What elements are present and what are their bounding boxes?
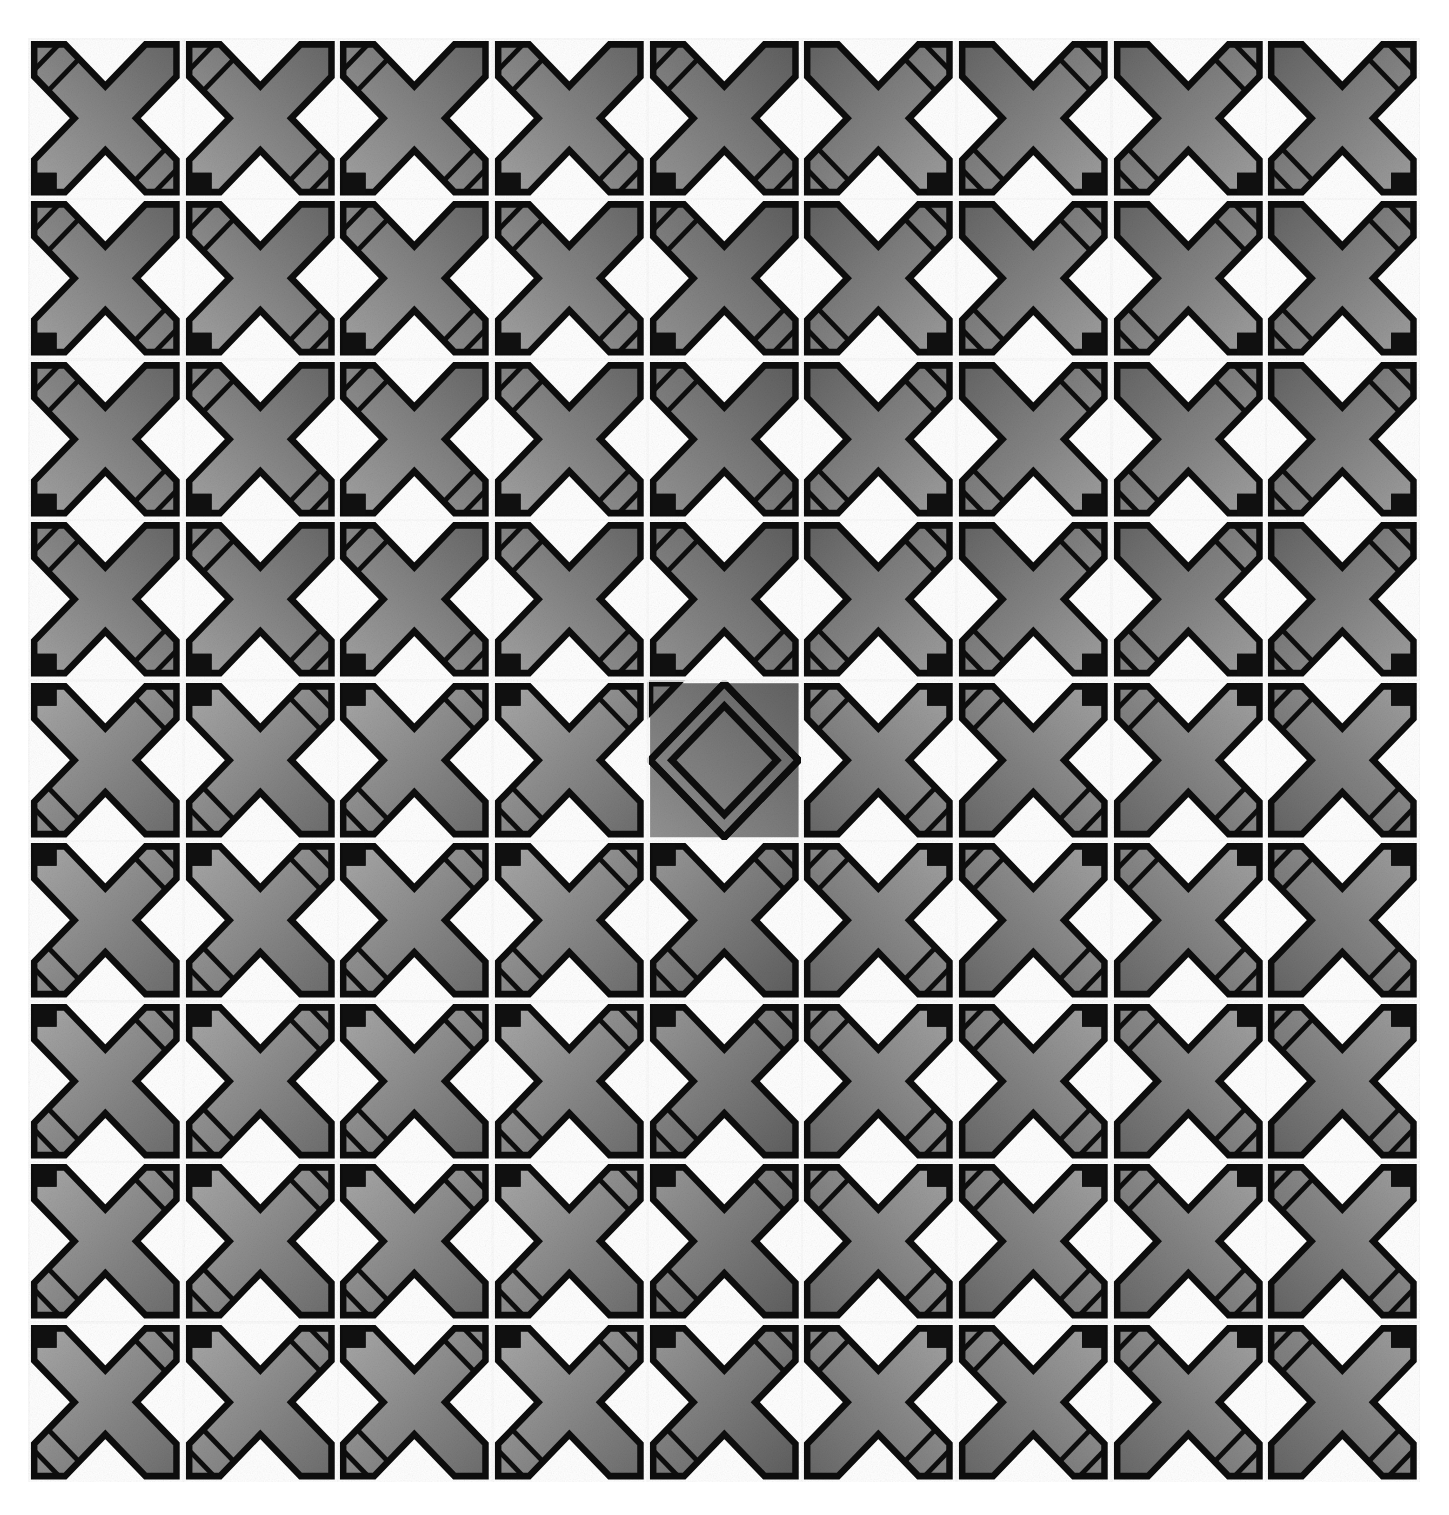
- tile-cell: [1265, 1322, 1420, 1482]
- tile-cell: [183, 840, 338, 1000]
- tile-cell: [337, 198, 492, 358]
- tile-cell: [647, 198, 802, 358]
- tile-cell: [1265, 38, 1420, 198]
- tile-cell: [183, 1161, 338, 1321]
- tile-cell: [647, 1001, 802, 1161]
- tile-cell: [492, 680, 647, 840]
- tile-cell: [1265, 359, 1420, 519]
- tile-cell: [647, 1161, 802, 1321]
- tile-cell: [183, 1322, 338, 1482]
- tile-cell: [28, 519, 183, 679]
- tile-cell: [183, 1001, 338, 1161]
- tile-cell: [801, 680, 956, 840]
- tile-cell: [801, 359, 956, 519]
- tile-cell: [956, 1161, 1111, 1321]
- tile-cell: [492, 198, 647, 358]
- tile-cell: [492, 359, 647, 519]
- tile-cell: [801, 1322, 956, 1482]
- tile-cell: [1111, 359, 1266, 519]
- tile-cell: [801, 519, 956, 679]
- tile-cell: [956, 359, 1111, 519]
- tile-cell: [183, 198, 338, 358]
- tile-cell: [801, 198, 956, 358]
- tile-cell: [337, 519, 492, 679]
- tile-cell: [28, 198, 183, 358]
- tile-cell: [956, 198, 1111, 358]
- tile-cell: [647, 680, 802, 840]
- tile-cell: [492, 38, 647, 198]
- tile-cell: [647, 38, 802, 198]
- tile-cell: [337, 680, 492, 840]
- tile-cell: [1265, 198, 1420, 358]
- tile-cell: [1111, 680, 1266, 840]
- tile-cell: [28, 680, 183, 840]
- tile-cell: [1265, 680, 1420, 840]
- tile-cell: [956, 519, 1111, 679]
- tile-cell: [337, 1161, 492, 1321]
- tile-cell: [28, 1161, 183, 1321]
- tile-cell: [647, 1322, 802, 1482]
- tile-cell: [801, 1161, 956, 1321]
- tile-cell: [956, 1322, 1111, 1482]
- tile-cell: [337, 38, 492, 198]
- tile-cell: [492, 840, 647, 1000]
- tile-cell: [28, 1001, 183, 1161]
- tile-cell: [28, 1322, 183, 1482]
- tile-cell: [1265, 1001, 1420, 1161]
- tile-cell: [183, 680, 338, 840]
- tile-pattern-grid: [28, 38, 1420, 1482]
- tile-cell: [492, 1001, 647, 1161]
- tile-cell: [28, 359, 183, 519]
- tile-cell: [492, 1322, 647, 1482]
- tile-cell: [1111, 38, 1266, 198]
- tile-cell: [801, 38, 956, 198]
- tile-cell: [1111, 840, 1266, 1000]
- tile-cell: [337, 359, 492, 519]
- tile-cell: [1111, 198, 1266, 358]
- tile-cell: [956, 840, 1111, 1000]
- tile-cell: [492, 1161, 647, 1321]
- tile-cell: [183, 519, 338, 679]
- tile-cell: [647, 359, 802, 519]
- tile-cell: [1111, 1001, 1266, 1161]
- tile-cell: [801, 1001, 956, 1161]
- tile-cell: [337, 840, 492, 1000]
- tile-cell: [1265, 519, 1420, 679]
- tile-cell: [183, 359, 338, 519]
- tile-cell: [183, 38, 338, 198]
- tile-cell: [956, 1001, 1111, 1161]
- tile-cell: [1111, 1322, 1266, 1482]
- tile-cell: [1265, 840, 1420, 1000]
- tile-cell: [28, 840, 183, 1000]
- tile-cell: [492, 519, 647, 679]
- tile-cell: [337, 1322, 492, 1482]
- tile-cell: [1111, 1161, 1266, 1321]
- tile-cell: [28, 38, 183, 198]
- tile-cell: [647, 519, 802, 679]
- tile-cell: [337, 1001, 492, 1161]
- tile-cell: [801, 840, 956, 1000]
- tile-cell: [1265, 1161, 1420, 1321]
- tile-cell: [956, 38, 1111, 198]
- tile-cell: [956, 680, 1111, 840]
- tile-cell: [647, 840, 802, 1000]
- tile-cell: [1111, 519, 1266, 679]
